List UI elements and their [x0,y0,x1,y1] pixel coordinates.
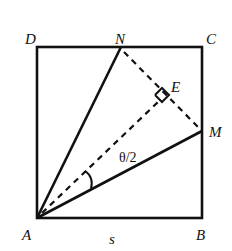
label-c: C [206,31,217,47]
square-diagram: D N C E M θ/2 A s B [0,0,232,251]
segment-am [37,131,202,218]
label-d: D [24,31,36,47]
segment-an [37,47,121,218]
square-abcd [37,47,202,218]
label-side-s: s [109,231,115,247]
label-a: A [21,227,32,243]
label-m: M [208,124,223,140]
segment-ae-dashed [42,102,158,213]
segment-nm-dashed [124,52,199,128]
label-n: N [114,31,126,47]
label-angle-theta-half: θ/2 [119,150,137,165]
label-b: B [196,227,205,243]
label-e: E [170,79,180,95]
angle-arc [85,171,92,189]
